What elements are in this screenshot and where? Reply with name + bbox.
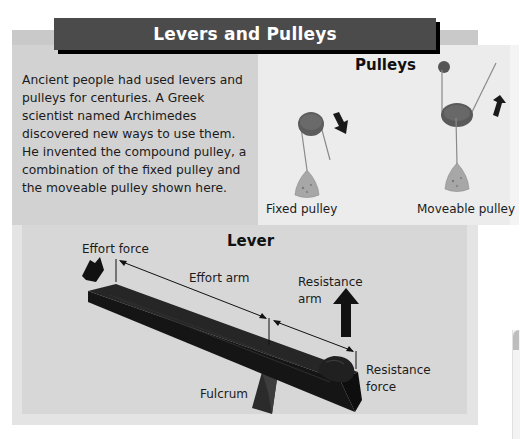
fulcrum-label: Fulcrum: [200, 387, 248, 401]
resistance-arm-label-line1: Resistance: [298, 275, 363, 289]
effort-arm-label: Effort arm: [189, 271, 249, 285]
effort-force-arrow-icon: [82, 257, 104, 282]
resistance-arm-label-line2: arm: [298, 292, 322, 306]
effort-force-label: Effort force: [82, 242, 149, 256]
resistance-force-arrow-icon: [333, 288, 359, 337]
resistance-force-label-line1: Resistance: [366, 363, 431, 377]
resistance-force-label-line2: force: [366, 380, 396, 394]
